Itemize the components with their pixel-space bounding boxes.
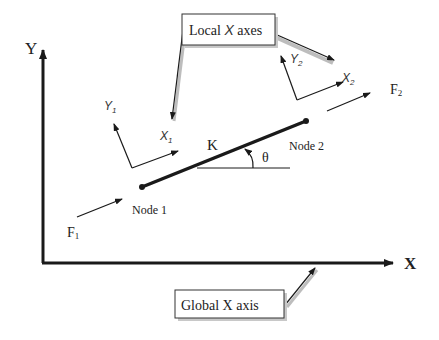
forces: F1 F2 — [67, 82, 402, 241]
node-2-dot — [303, 118, 309, 124]
callout-pointer-x2-shadow — [275, 37, 333, 63]
force-1-arrow — [77, 199, 122, 217]
node-1-dot — [139, 184, 145, 190]
local-axes-node-2: Y2 X2 — [281, 52, 355, 100]
local-x2-label: X2 — [341, 71, 355, 87]
diagram-svg: Y X K θ Node 1 Node 2 Y1 X1 Y2 X2 F1 F2 — [0, 0, 439, 340]
node-2-label: Node 2 — [289, 139, 324, 153]
angle-label: θ — [262, 150, 269, 165]
callout-pointer-x1 — [172, 30, 183, 119]
local-y2-label: Y2 — [290, 52, 303, 68]
local-y1-axis — [114, 124, 132, 168]
global-callout-pointer-shadow — [287, 270, 317, 307]
local-x1-label: X1 — [159, 129, 172, 145]
force-2-label: F2 — [390, 82, 402, 98]
stiffness-label: K — [207, 137, 218, 153]
local-axes-node-1: Y1 X1 — [104, 99, 178, 168]
node-1-label: Node 1 — [132, 203, 167, 217]
global-callout-pointer — [285, 268, 315, 305]
callout-pointer-x2 — [275, 34, 334, 60]
global-y-label: Y — [25, 39, 37, 58]
global-axis-callout: Global X axis — [175, 268, 317, 321]
local-x1-axis — [132, 151, 178, 168]
local-x2-axis — [297, 82, 343, 100]
truss-element-diagram: Y X K θ Node 1 Node 2 Y1 X1 Y2 X2 F1 F2 — [0, 0, 439, 340]
local-y1-label: Y1 — [104, 99, 116, 115]
angle-arc-icon — [245, 149, 253, 168]
global-x-label: X — [404, 254, 417, 273]
force-1-label: F1 — [67, 225, 79, 241]
local-axes-callout: Local X axes — [172, 14, 334, 121]
global-callout-text: Global X axis — [181, 298, 259, 313]
local-axes-callout-text: Local X axes — [189, 22, 262, 38]
force-2-arrow — [327, 93, 370, 111]
